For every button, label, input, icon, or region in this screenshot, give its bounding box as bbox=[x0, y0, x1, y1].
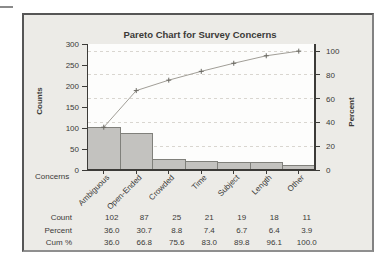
bar-time bbox=[185, 161, 218, 170]
right-tick-label: 0 bbox=[326, 166, 331, 175]
right-tick-label: 80 bbox=[326, 71, 335, 80]
category-label-crowded: Crowded bbox=[147, 173, 176, 202]
category-label-subject: Subject bbox=[216, 173, 242, 199]
bar-crowded bbox=[153, 160, 186, 171]
concerns-axis-label: Concerns bbox=[35, 172, 69, 181]
table-row-label: Cum % bbox=[46, 238, 72, 247]
table-cell: 25 bbox=[172, 213, 181, 222]
table-cell: 75.6 bbox=[169, 238, 185, 247]
left-tick-label: 50 bbox=[70, 145, 79, 154]
bar-length bbox=[250, 162, 283, 170]
left-tick-label: 150 bbox=[66, 103, 80, 112]
table-cell: 21 bbox=[205, 213, 214, 222]
bar-open-ended bbox=[120, 133, 153, 170]
category-label-time: Time bbox=[190, 173, 209, 192]
category-label-open-ended: Open-Ended bbox=[105, 173, 143, 211]
left-tick-label: 0 bbox=[75, 166, 80, 175]
bar-ambiguous bbox=[88, 127, 121, 170]
counts-axis-label: Counts bbox=[35, 87, 44, 115]
table-cell: 6.4 bbox=[269, 226, 281, 235]
table-row-label: Percent bbox=[44, 226, 72, 235]
left-tick-label: 200 bbox=[66, 82, 80, 91]
table-cell: 36.0 bbox=[104, 238, 120, 247]
category-label-length: Length bbox=[250, 173, 274, 197]
table-cell: 6.7 bbox=[236, 226, 248, 235]
table-cell: 18 bbox=[270, 213, 279, 222]
table-cell: 100.0 bbox=[297, 238, 318, 247]
percent-axis-label: Percent bbox=[347, 97, 356, 127]
left-tick-label: 250 bbox=[66, 61, 80, 70]
table-cell: 83.0 bbox=[201, 238, 217, 247]
table-cell: 102 bbox=[105, 213, 119, 222]
right-tick-label: 60 bbox=[326, 95, 335, 104]
page-edge-dash bbox=[0, 6, 13, 8]
right-tick-label: 20 bbox=[326, 142, 335, 151]
category-label-other: Other bbox=[286, 173, 307, 194]
chart-title: Pareto Chart for Survey Concerns bbox=[123, 29, 276, 40]
table-cell: 11 bbox=[303, 213, 312, 222]
left-tick-label: 300 bbox=[66, 40, 80, 49]
table-cell: 96.1 bbox=[266, 238, 282, 247]
table-cell: 7.4 bbox=[204, 226, 216, 235]
bar-other bbox=[283, 165, 316, 170]
left-tick-label: 100 bbox=[66, 124, 80, 133]
pareto-chart: 050100150200250300020406080100 Ambiguous… bbox=[24, 15, 372, 250]
right-tick-label: 100 bbox=[326, 47, 340, 56]
category-label-ambiguous: Ambiguous bbox=[76, 173, 111, 208]
table-cell: 66.8 bbox=[136, 238, 152, 247]
table-cell: 3.9 bbox=[301, 226, 313, 235]
table-cell: 8.8 bbox=[171, 226, 183, 235]
bar-subject bbox=[218, 162, 251, 170]
table-cell: 89.8 bbox=[234, 238, 250, 247]
table-cell: 30.7 bbox=[136, 226, 152, 235]
table-cell: 19 bbox=[237, 213, 246, 222]
table-cell: 87 bbox=[140, 213, 149, 222]
chart-frame: 050100150200250300020406080100 Ambiguous… bbox=[22, 13, 374, 252]
right-tick-label: 40 bbox=[326, 118, 335, 127]
table-cell: 36.0 bbox=[104, 226, 120, 235]
table-row-label: Count bbox=[51, 213, 73, 222]
